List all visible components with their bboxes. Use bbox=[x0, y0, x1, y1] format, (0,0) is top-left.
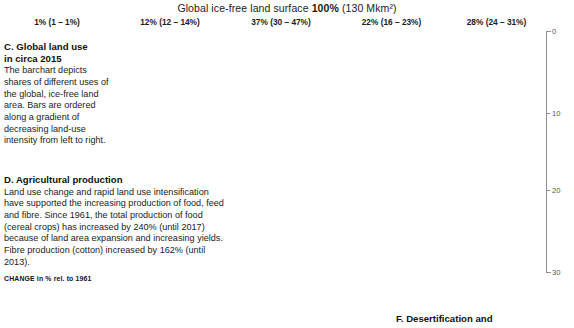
chart-title-pre: Global ice-free land surface bbox=[177, 2, 311, 14]
axis-tick-0 bbox=[546, 31, 550, 32]
panel-d-heading: D. Agricultural production bbox=[4, 174, 224, 186]
axis-tick-label-20: 20 bbox=[552, 186, 560, 195]
chart-title: Global ice-free land surface 100% (130 M… bbox=[0, 2, 574, 14]
axis-cap-bottom bbox=[546, 272, 551, 273]
axis-tick-label-0: 0 bbox=[552, 27, 556, 36]
panel-d-axis-note: CHANGE in % rel. to 1961 bbox=[4, 275, 224, 282]
panel-d-body: Land use change and rapid land use inten… bbox=[4, 187, 224, 269]
column-header-4: 22% (16 – 23%) bbox=[336, 17, 447, 27]
column-header-1: 1% (1 – 1%) bbox=[0, 17, 114, 27]
panel-c-heading-line1: C. Global land use bbox=[4, 41, 110, 53]
panel-f: F. Desertification and bbox=[396, 313, 574, 325]
column-header-2: 12% (12 – 14%) bbox=[114, 17, 226, 27]
panel-d: D. Agricultural production Land use chan… bbox=[4, 174, 224, 282]
chart-title-strong: 100% bbox=[312, 2, 339, 14]
chart-title-post: (130 Mkm²) bbox=[339, 2, 397, 14]
axis-tick-label-10: 10 bbox=[552, 109, 560, 118]
axis-tick-label-30: 30 bbox=[552, 268, 560, 277]
infographic-panel: Global ice-free land surface 100% (130 M… bbox=[0, 0, 574, 328]
axis-tick-20 bbox=[546, 190, 550, 191]
column-header-5: 28% (24 – 31%) bbox=[447, 17, 546, 27]
axis-spine bbox=[546, 31, 547, 272]
axis-tick-10 bbox=[546, 113, 550, 114]
panel-c: C. Global land use in circa 2015 The bar… bbox=[4, 41, 110, 147]
panel-f-heading: F. Desertification and bbox=[396, 313, 574, 325]
column-header-3: 37% (30 – 47%) bbox=[226, 17, 336, 27]
panel-c-heading-line2: in circa 2015 bbox=[4, 53, 110, 65]
y-axis: 0 10 20 30 bbox=[546, 28, 574, 276]
panel-c-body: The barchart depicts shares of different… bbox=[4, 65, 110, 147]
